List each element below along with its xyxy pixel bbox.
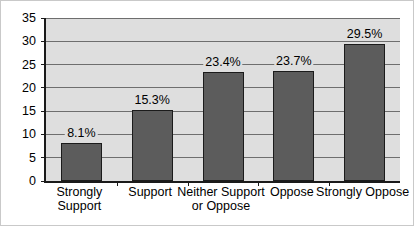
bar xyxy=(61,143,102,181)
y-axis-tick-mark xyxy=(41,41,46,42)
y-axis-tick-mark xyxy=(41,87,46,88)
y-axis-tick-label: 25 xyxy=(6,58,36,71)
bar xyxy=(344,44,385,181)
x-category-label-line: Strongly Oppose xyxy=(316,185,409,199)
y-axis-tick-mark xyxy=(41,134,46,135)
bar-value-label: 23.4% xyxy=(203,56,242,69)
y-axis-tick-label: 5 xyxy=(6,151,36,164)
x-axis-category-label: Neither Supportor Oppose xyxy=(177,185,265,213)
gridline xyxy=(46,18,400,19)
bar xyxy=(132,110,173,181)
bar-value-label: 29.5% xyxy=(345,28,384,41)
y-axis-tick-mark xyxy=(41,157,46,158)
y-axis-tick-mark xyxy=(41,18,46,19)
x-axis-category-label: Strongly Oppose xyxy=(316,185,409,199)
plot-area: 8.1%15.3%23.4%23.7%29.5% xyxy=(44,18,400,183)
bar-value-label: 23.7% xyxy=(274,55,313,68)
y-axis-tick-mark xyxy=(41,64,46,65)
x-axis-category-label: StronglySupport xyxy=(56,185,102,213)
y-axis-tick-label: 30 xyxy=(6,35,36,48)
y-axis-tick-label: 15 xyxy=(6,105,36,118)
x-axis-category-label: Oppose xyxy=(270,185,314,199)
y-axis-tick-mark xyxy=(41,111,46,112)
x-category-label-line: Support xyxy=(56,199,102,213)
bar xyxy=(203,72,244,181)
x-category-label-line: Oppose xyxy=(270,185,314,199)
bar xyxy=(273,71,314,181)
x-category-label-line: or Oppose xyxy=(177,199,265,213)
gridline xyxy=(46,41,400,42)
x-axis-category-label: Support xyxy=(128,185,172,199)
y-axis-tick-label: 0 xyxy=(6,175,36,188)
x-category-label-line: Neither Support xyxy=(177,185,265,199)
y-axis-tick-mark xyxy=(41,181,46,182)
bar-chart-figure: 05101520253035 8.1%15.3%23.4%23.7%29.5% … xyxy=(0,0,414,226)
x-category-label-line: Strongly xyxy=(56,185,102,199)
y-axis-tick-label: 20 xyxy=(6,82,36,95)
bar-value-label: 15.3% xyxy=(132,94,171,107)
y-axis-tick-label: 10 xyxy=(6,128,36,141)
y-axis-tick-label: 35 xyxy=(6,12,36,25)
x-category-label-line: Support xyxy=(128,185,172,199)
x-axis-tick-mark xyxy=(117,181,118,186)
bar-value-label: 8.1% xyxy=(65,127,98,140)
